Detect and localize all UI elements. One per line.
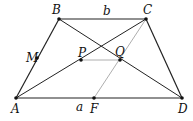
label-d-point: D [178, 103, 188, 115]
point-c [144, 17, 148, 21]
geometry-diagram: B C b M P Q A a F D [0, 0, 193, 121]
point-f [92, 96, 96, 100]
label-side-a: a [76, 101, 83, 113]
point-d [180, 96, 184, 100]
label-c-point: C [143, 4, 152, 16]
label-f-point: F [90, 103, 98, 115]
point-b [57, 17, 61, 21]
label-a-point: A [11, 103, 20, 115]
label-side-b: b [103, 5, 111, 17]
label-m-point: M [26, 52, 38, 64]
label-b-point: B [52, 4, 61, 16]
label-q-point: Q [115, 46, 125, 58]
label-p-point: P [78, 47, 86, 59]
point-a [14, 96, 18, 100]
